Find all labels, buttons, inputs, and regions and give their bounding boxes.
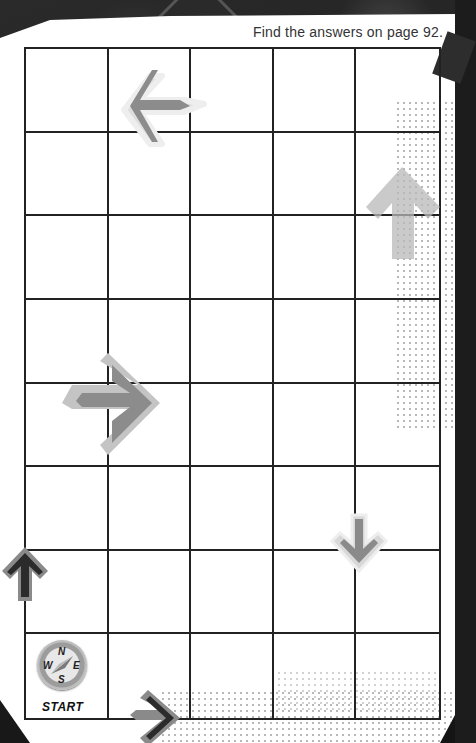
grid-cell	[191, 384, 274, 468]
down-arrow-icon	[328, 513, 390, 575]
grid-cell	[356, 49, 439, 133]
grid-cell	[26, 133, 109, 217]
grid-cell	[109, 467, 192, 551]
grid-cell	[274, 384, 357, 468]
grid-cell	[26, 467, 109, 551]
compass-west: W	[43, 660, 52, 671]
grid-cell	[191, 216, 274, 300]
compass-icon: N S E W	[37, 640, 87, 690]
compass-east: E	[73, 660, 80, 671]
compass-north: N	[58, 646, 65, 657]
grid-cell	[191, 551, 274, 635]
grid-cell	[356, 384, 439, 468]
grid-cell	[356, 300, 439, 384]
grid-cell	[274, 133, 357, 217]
grid-cell	[274, 300, 357, 384]
grid-cell	[274, 49, 357, 133]
compass-south: S	[58, 674, 65, 685]
up-arrow-faded-icon	[362, 163, 442, 263]
start-label: START	[42, 700, 83, 714]
right-arrow-icon	[60, 345, 180, 465]
grid-cell	[109, 551, 192, 635]
left-arrow-icon	[118, 62, 213, 158]
grid-cell	[26, 216, 109, 300]
grid-cell	[191, 634, 274, 718]
grid-cell	[26, 49, 109, 133]
answers-note: Find the answers on page 92.	[253, 24, 443, 40]
grid-cell	[191, 467, 274, 551]
grid-cell	[191, 300, 274, 384]
right-arrow-dark-icon	[128, 688, 183, 743]
grid-cell	[356, 634, 439, 718]
up-arrow-dark-icon	[0, 545, 50, 603]
grid-cell	[274, 634, 357, 718]
grid-cell	[274, 216, 357, 300]
grid-cell	[109, 216, 192, 300]
